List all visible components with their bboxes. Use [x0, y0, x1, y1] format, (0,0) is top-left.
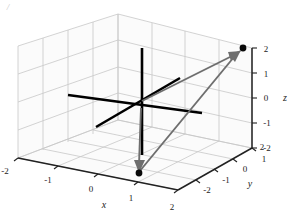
y-axis-title: y	[247, 178, 253, 189]
point-top-marker	[240, 45, 247, 52]
z-tick-label-4: -2	[263, 143, 271, 153]
z-tick-label-0: 2	[264, 44, 269, 54]
y-tick-label-3: 1	[262, 154, 267, 164]
x-axis-title: x	[101, 199, 107, 210]
y-tick-label-0: -2	[203, 185, 211, 195]
plot-3d-canvas: -2 -1 0 1 2 x -2 -1 0 1 2 y 2	[0, 0, 297, 217]
z-tick-label-3: -1	[263, 118, 271, 128]
y-tick-label-2: 0	[243, 164, 248, 174]
y-tick-label-1: -1	[222, 175, 230, 185]
x-tick-label-4: 2	[170, 202, 175, 212]
x-tick-label-0: -2	[1, 166, 9, 176]
x-tick-label-2: 0	[89, 184, 94, 194]
figure-container: -2 -1 0 1 2 x -2 -1 0 1 2 y 2	[0, 0, 297, 217]
point-bottom-marker	[136, 170, 143, 177]
z-axis-ticks-group: 2 1 0 -1 -2 z	[252, 44, 287, 153]
pane-group	[18, 14, 252, 190]
corner-mark: /	[6, 2, 11, 12]
z-tick-label-2: 0	[264, 93, 269, 103]
z-tick-label-1: 1	[264, 69, 269, 79]
x-tick-label-1: -1	[44, 175, 52, 185]
z-axis-title: z	[282, 92, 287, 103]
x-tick-label-3: 1	[129, 193, 134, 203]
